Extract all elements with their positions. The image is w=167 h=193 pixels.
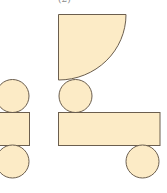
right-rectangle [59,113,161,146]
right-top-circle [59,80,92,113]
right-bottom-circle [126,145,159,178]
left-top-circle [0,80,29,113]
left-net [0,80,30,179]
left-bottom-circle [0,145,29,178]
left-rectangle [0,113,30,146]
right-net [59,15,161,179]
net-diagram [0,0,167,193]
quarter-circle-sector [59,15,127,81]
